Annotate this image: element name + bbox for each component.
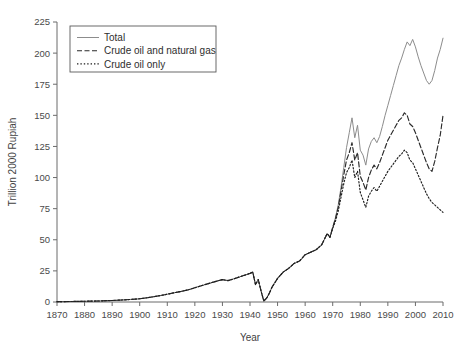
data-series-group <box>57 38 443 301</box>
series-line-total <box>57 38 443 301</box>
y-tick-label: 0 <box>45 296 50 307</box>
x-tick-label: 2010 <box>432 309 453 320</box>
x-tick-label: 1940 <box>239 309 260 320</box>
x-tick-label: 1880 <box>74 309 95 320</box>
y-tick-label: 225 <box>34 16 50 27</box>
y-tick-label: 150 <box>34 110 50 121</box>
y-tick-label: 25 <box>39 265 50 276</box>
x-tick-label: 1970 <box>322 309 343 320</box>
chart-legend: TotalCrude oil and natural gasCrude oil … <box>70 26 216 72</box>
y-tick-label: 200 <box>34 48 50 59</box>
chart-figure: 0255075100125150175200225 18701880189019… <box>0 0 465 349</box>
x-tick-label: 1890 <box>102 309 123 320</box>
x-tick-label: 1960 <box>295 309 316 320</box>
x-tick-label: 2000 <box>405 309 426 320</box>
y-tick-label: 125 <box>34 141 50 152</box>
line-chart-svg: 0255075100125150175200225 18701880189019… <box>0 0 465 349</box>
y-axis-label: Trillion 2000 Rupiah <box>7 118 18 207</box>
x-tick-label: 1980 <box>350 309 371 320</box>
legend-label: Crude oil and natural gas <box>104 45 216 56</box>
series-line-crude-oil-only <box>57 150 443 301</box>
y-tick-label: 75 <box>39 203 50 214</box>
y-tick-label: 50 <box>39 234 50 245</box>
legend-label: Total <box>104 32 125 43</box>
x-tick-label: 1930 <box>212 309 233 320</box>
x-tick-label: 1920 <box>184 309 205 320</box>
x-tick-label: 1990 <box>377 309 398 320</box>
x-axis-ticks: 1870188018901900191019201930194019501960… <box>46 302 453 320</box>
x-tick-label: 1870 <box>46 309 67 320</box>
legend-label: Crude oil only <box>104 59 165 70</box>
y-tick-label: 100 <box>34 172 50 183</box>
x-axis-label: Year <box>240 332 261 343</box>
y-axis-ticks: 0255075100125150175200225 <box>34 16 57 307</box>
x-tick-label: 1950 <box>267 309 288 320</box>
y-tick-label: 175 <box>34 79 50 90</box>
x-tick-label: 1910 <box>157 309 178 320</box>
x-tick-label: 1900 <box>129 309 150 320</box>
